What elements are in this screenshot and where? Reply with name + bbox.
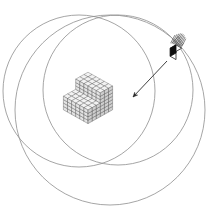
single-source-cube [170, 34, 185, 60]
voxel-assembly [63, 72, 112, 123]
circle-upper-right [43, 15, 193, 165]
figure-svg [0, 0, 215, 219]
arrow-shaft [133, 61, 167, 97]
pointer-arrow [133, 61, 167, 97]
figure-canvas: Three overlapping circles with voxel ass… [0, 0, 215, 219]
